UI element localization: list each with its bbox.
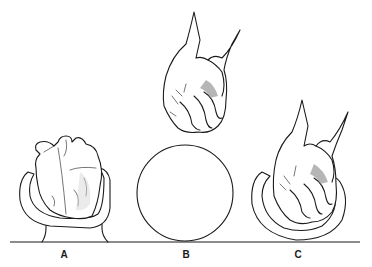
panel-c-fist-in-cup — [252, 100, 348, 240]
panel-label-c: C — [294, 250, 301, 260]
panel-label-b: B — [182, 250, 189, 260]
panel-b-fist-above-sphere — [137, 12, 240, 241]
sphere — [137, 145, 233, 241]
panel-a-heart-in-cup — [20, 136, 110, 242]
panel-label-a: A — [60, 250, 67, 260]
illustration — [0, 0, 372, 267]
